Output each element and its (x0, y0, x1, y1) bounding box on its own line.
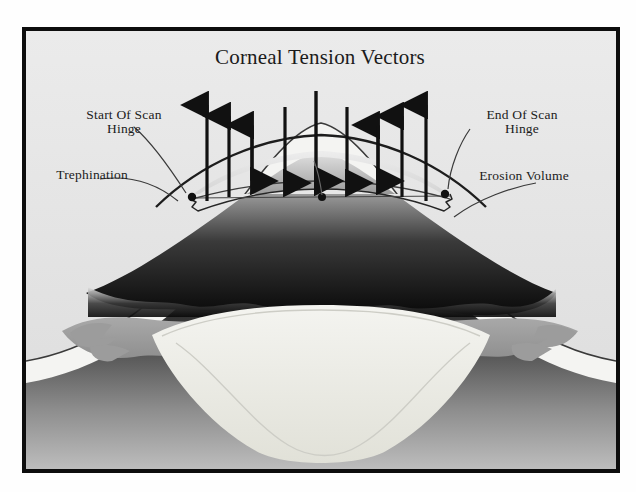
page-title: Corneal Tension Vectors (160, 46, 480, 68)
end-hinge-dot (441, 190, 449, 198)
figure-frame (22, 27, 620, 473)
start-hinge-dot (188, 193, 196, 201)
label-trephination: Trephination (32, 168, 152, 182)
label-end-of-scan-hinge: End Of ScanHinge (452, 108, 592, 136)
figure-root: Corneal Tension Vectors Start Of ScanHin… (0, 0, 636, 492)
label-erosion-volume: Erosion Volume (454, 169, 594, 183)
eye-cross-section-illustration (26, 31, 616, 469)
label-start-of-scan-hinge: Start Of ScanHinge (54, 108, 194, 136)
